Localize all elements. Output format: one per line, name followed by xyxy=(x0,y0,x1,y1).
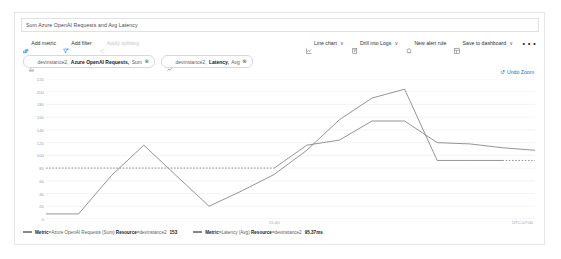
y-tick-label: 40 xyxy=(39,191,44,196)
drill-into-logs-button[interactable]: Drill into Logs ∨ xyxy=(352,40,398,46)
undo-zoom-label: Undo Zoom xyxy=(507,69,534,75)
metric-chip-azure-openai-requests[interactable]: devinstance2, Azure OpenAI Requests, Sum… xyxy=(23,55,155,68)
add-filter-button[interactable]: Add filter xyxy=(63,40,92,46)
y-axis: 020406080100120140160180200220 xyxy=(21,79,45,219)
chart-type-button[interactable]: Line chart ∨ xyxy=(306,40,344,46)
alert-bell-icon xyxy=(406,40,412,46)
chevron-down-icon: ∨ xyxy=(395,40,399,46)
new-alert-rule-button[interactable]: New alert rule xyxy=(406,40,446,46)
drill-into-logs-label: Drill into Logs xyxy=(360,40,391,46)
chart-type-label: Line chart xyxy=(314,40,337,46)
save-to-dashboard-button[interactable]: Save to dashboard ∨ xyxy=(454,40,513,46)
y-tick-label: 140 xyxy=(37,127,44,132)
chevron-down-icon: ∨ xyxy=(340,40,344,46)
add-metric-icon xyxy=(23,40,29,46)
y-tick-label: 160 xyxy=(37,115,44,120)
chip-metric-name: Latency, xyxy=(209,59,229,65)
x-tick-label: 15:40 xyxy=(269,220,280,225)
series-line xyxy=(46,89,502,214)
y-tick-label: 100 xyxy=(37,153,44,158)
legend-swatch xyxy=(193,231,202,233)
chevron-down-icon: ∨ xyxy=(509,40,513,46)
save-to-dashboard-label: Save to dashboard xyxy=(463,40,507,46)
undo-icon: ↺ xyxy=(500,69,505,75)
chart-svg xyxy=(46,79,535,219)
chip-remove-icon[interactable]: ⊗ xyxy=(145,59,150,64)
chip-metric-name: Azure OpenAI Requests, xyxy=(71,59,129,65)
y-tick-label: 20 xyxy=(39,204,44,209)
add-metric-label: Add metric xyxy=(31,40,56,46)
toolbar-right-group: Line chart ∨ Drill into Logs ∨ New alert… xyxy=(306,34,539,53)
chip-aggregation: Sum xyxy=(132,59,142,65)
filter-icon xyxy=(63,40,69,46)
y-tick-label: 120 xyxy=(37,140,44,145)
chip-resource: devinstance2, xyxy=(176,59,207,65)
legend-swatch xyxy=(23,231,32,233)
timezone-label: UTC-07:00 xyxy=(512,220,533,225)
chip-resource: devinstance2, xyxy=(38,59,69,65)
metric-chip-latency[interactable]: devinstance2, Latency, Avg ⊗ xyxy=(161,55,253,68)
legend-label: Metric=Azure OpenAI Requests (Sum) Resou… xyxy=(35,230,167,235)
logs-icon xyxy=(352,40,358,46)
add-filter-label: Add filter xyxy=(71,40,91,46)
metric-line-icon xyxy=(167,59,173,65)
y-tick-label: 0 xyxy=(42,217,44,222)
legend-item[interactable]: Metric=Azure OpenAI Requests (Sum) Resou… xyxy=(23,230,177,235)
line-chart-icon xyxy=(306,40,312,46)
splitting-icon xyxy=(99,40,105,46)
y-tick-label: 60 xyxy=(39,178,44,183)
y-tick-label: 180 xyxy=(37,102,44,107)
chart-title-bar[interactable]: Sum Azure OpenAI Requests and Avg Latenc… xyxy=(21,18,539,32)
plot-area[interactable] xyxy=(46,79,535,219)
series-line xyxy=(274,121,535,168)
metrics-chart-panel: Sum Azure OpenAI Requests and Avg Latenc… xyxy=(14,12,545,245)
toolbar-left-group: Add metric Add filter Apply splitting xyxy=(21,40,139,46)
legend-value: 153 xyxy=(170,230,178,235)
page-title: Sum Azure OpenAI Requests and Avg Latenc… xyxy=(26,22,138,28)
chip-remove-icon[interactable]: ⊗ xyxy=(242,59,247,64)
new-alert-rule-label: New alert rule xyxy=(414,40,446,46)
chart-area: 020406080100120140160180200220 15:40UTC-… xyxy=(21,79,539,231)
legend-value: 95.37ms xyxy=(305,230,323,235)
metric-bars-icon xyxy=(29,59,35,65)
metric-chip-list: devinstance2, Azure OpenAI Requests, Sum… xyxy=(23,55,253,68)
legend-item[interactable]: Metric=Latency (Avg) Resource=devinstanc… xyxy=(193,230,323,235)
apply-splitting-label: Apply splitting xyxy=(107,40,139,46)
apply-splitting-button[interactable]: Apply splitting xyxy=(99,40,139,46)
legend-label: Metric=Latency (Avg) Resource=devinstanc… xyxy=(205,230,301,235)
y-tick-label: 220 xyxy=(37,77,44,82)
chart-legend: Metric=Azure OpenAI Requests (Sum) Resou… xyxy=(23,226,536,238)
undo-zoom-button[interactable]: ↺ Undo Zoom xyxy=(500,69,534,75)
chip-aggregation: Avg xyxy=(231,59,240,65)
y-tick-label: 200 xyxy=(37,89,44,94)
dashboard-save-icon xyxy=(454,40,460,46)
y-tick-label: 80 xyxy=(39,166,44,171)
add-metric-button[interactable]: Add metric xyxy=(23,40,56,46)
chart-toolbar: Add metric Add filter Apply splitting xyxy=(21,36,539,50)
more-options-button[interactable]: ⋯ xyxy=(521,34,537,53)
